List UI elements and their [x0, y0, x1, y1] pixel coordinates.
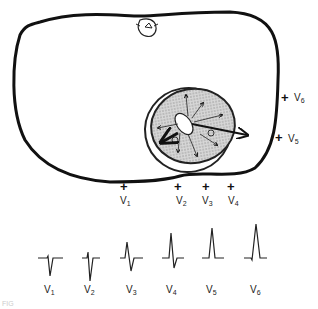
waveform-v2	[82, 252, 100, 281]
waveform-v6	[244, 224, 267, 260]
vertebra-icon	[136, 19, 158, 37]
waveform-v4-label: V4	[166, 285, 177, 296]
ecg-waveforms	[38, 224, 267, 281]
electrode-v5-label: V5	[288, 134, 299, 145]
electrode-v3-plus: +	[202, 180, 210, 193]
electrode-v6-plus: +	[281, 91, 289, 104]
waveform-v1-label: V1	[44, 285, 55, 296]
waveform-v3-label: V3	[126, 285, 137, 296]
waveform-v5-label: V5	[206, 285, 217, 296]
waveform-v3	[120, 242, 143, 271]
electrode-v1-plus: +	[120, 180, 128, 193]
electrode-v3-label: V3	[202, 196, 213, 207]
heart-cross-section	[138, 81, 247, 179]
waveform-v1	[38, 256, 63, 276]
electrode-v2-label: V2	[176, 196, 187, 207]
figure-caption: FIG	[2, 300, 14, 307]
electrode-v1-label: V1	[120, 196, 131, 207]
waveform-v5	[202, 228, 224, 258]
torso-outline	[14, 12, 279, 182]
electrode-v2-plus: +	[174, 180, 182, 193]
waveform-v2-label: V2	[84, 285, 95, 296]
waveform-v6-label: V6	[250, 285, 261, 296]
diagram-canvas	[0, 0, 318, 309]
electrode-v5-plus: +	[275, 131, 283, 144]
electrode-v4-label: V4	[228, 196, 239, 207]
waveform-v4	[162, 233, 184, 268]
electrode-v4-plus: +	[227, 180, 235, 193]
electrode-v6-label: V6	[294, 93, 305, 104]
